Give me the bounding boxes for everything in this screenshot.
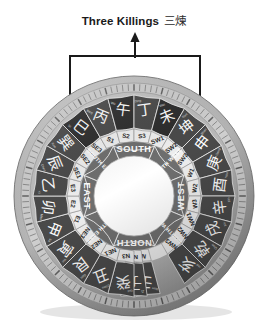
degree-tick (23, 184, 30, 185)
direction-label: WEST (176, 182, 186, 211)
mountain-code: E2 (69, 200, 77, 209)
up-arrow-icon (130, 32, 139, 42)
mountain-character: 午 (114, 100, 131, 120)
mountain-code: N3 (121, 252, 130, 260)
mountain-code: E3 (70, 184, 78, 193)
direction-label: EAST (82, 183, 92, 210)
degree-tick (145, 85, 146, 92)
mountain-pinyin: You (224, 172, 229, 178)
mountain-pinyin: Wu (111, 101, 116, 106)
degree-tick (23, 207, 30, 208)
mountain-code: S2 (122, 132, 131, 140)
degree-tick (122, 301, 123, 308)
compass-figure: Three Killings三煉 壬Ren子Zi癸Gui丑Chou艮Gen寅Yi… (0, 0, 268, 332)
degree-tick (122, 85, 123, 92)
mountain-pinyin: Xin (227, 197, 232, 202)
mountain-character: 丁 (137, 100, 154, 120)
mountain-code: W3 (190, 198, 198, 209)
compass-svg: 壬Ren子Zi癸Gui丑Chou艮Gen寅Yin甲Jia卯Mao乙Yi辰Chen… (0, 0, 268, 332)
compass-center (94, 156, 174, 236)
mountain-pinyin: Mao (39, 214, 44, 221)
figure-title-cn: 三煉 (164, 15, 186, 27)
compass-dial: 壬Ren子Zi癸Gui丑Chou艮Gen寅Yin甲Jia卯Mao乙Yi辰Chen… (14, 76, 254, 320)
degree-tick (239, 184, 246, 185)
mountain-pinyin: Ren (152, 286, 159, 291)
mountain-code: W2 (190, 182, 198, 193)
degree-tick (239, 207, 246, 208)
direction-label: SOUTH (116, 144, 151, 154)
figure-title-en: Three Killings (82, 15, 159, 27)
figure-title: Three Killings三煉 (0, 12, 268, 28)
mountain-code: S3 (138, 131, 147, 139)
mountain-pinyin: Gui (127, 289, 133, 294)
degree-tick (145, 301, 146, 308)
mountain-pinyin: Zi (141, 289, 144, 293)
direction-label: NORTH (116, 238, 152, 248)
mountain-character: 癸 (114, 272, 131, 292)
